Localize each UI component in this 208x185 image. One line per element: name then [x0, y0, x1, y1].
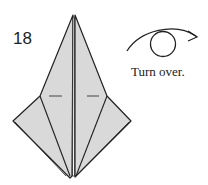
origami-model: [0, 0, 208, 185]
right-flap: [75, 15, 131, 177]
left-flap: [13, 15, 73, 178]
turn-over-icon: [127, 29, 197, 57]
instruction-caption: Turn over.: [131, 64, 185, 80]
center-slit: [73, 17, 75, 176]
